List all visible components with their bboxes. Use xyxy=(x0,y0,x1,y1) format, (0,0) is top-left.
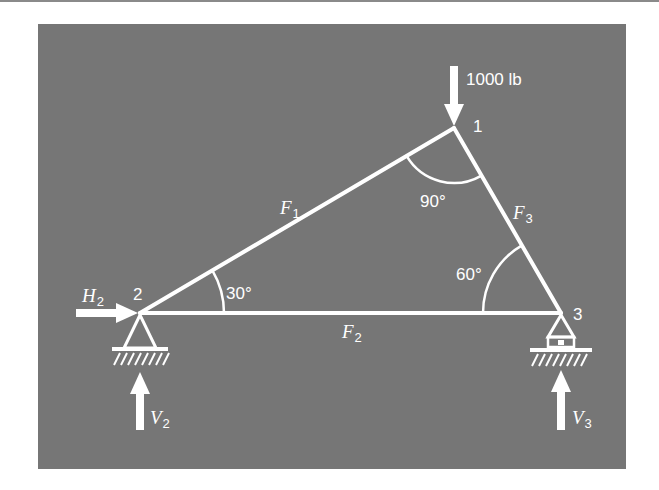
node-label-1: 1 xyxy=(473,118,482,135)
node-label-2: 2 xyxy=(133,286,142,303)
angle-label-90: 90° xyxy=(420,193,446,210)
reaction-label-h2: H2 xyxy=(82,286,104,308)
reaction-label-v3: V3 xyxy=(572,408,592,430)
load-arrow-1000lb xyxy=(444,66,464,126)
reaction-label-v2: V2 xyxy=(150,408,170,430)
member-label-f2: F2 xyxy=(342,322,362,344)
truss-diagram xyxy=(0,0,659,490)
angle-arc-node-2 xyxy=(213,271,225,313)
angle-label-60: 60° xyxy=(456,266,482,283)
member-f3 xyxy=(454,128,561,313)
angle-arc-node-3 xyxy=(483,245,522,313)
node-label-3: 3 xyxy=(573,306,582,323)
pin-support-node-2 xyxy=(112,315,169,365)
load-label: 1000 lb xyxy=(466,71,522,88)
roller-support-node-3 xyxy=(530,315,592,366)
reaction-arrow-v3 xyxy=(551,370,571,430)
reaction-arrow-v2 xyxy=(130,372,150,430)
member-label-f1: F1 xyxy=(280,198,300,220)
member-label-f3: F3 xyxy=(513,203,533,225)
angle-label-30: 30° xyxy=(226,285,252,302)
